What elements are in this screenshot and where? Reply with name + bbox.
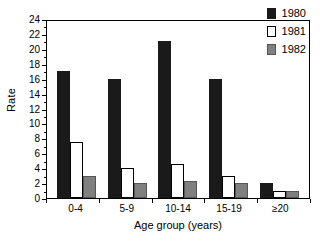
bar-1982-0-4[interactable]: [83, 176, 96, 198]
bar-1982-15-19[interactable]: [235, 183, 248, 198]
y-tick-label: 2: [34, 179, 40, 189]
bar-group: [209, 21, 248, 198]
legend-item-label: 1981: [282, 26, 306, 37]
x-axis-title: Age group (years): [46, 219, 310, 231]
x-tick-label: 0-4: [55, 203, 97, 214]
y-tick-label: 14: [29, 90, 40, 100]
legend-item-1980[interactable]: 1980: [267, 8, 306, 19]
bar-1981-10-14[interactable]: [171, 164, 184, 198]
x-tick-label: ≥20: [259, 203, 301, 214]
bar-1980-≥20[interactable]: [260, 183, 273, 198]
y-tick-label: 16: [29, 75, 40, 85]
y-tick-label: 22: [29, 30, 40, 40]
bar-1981-15-19[interactable]: [222, 176, 235, 198]
bar-1980-15-19[interactable]: [209, 79, 222, 198]
y-axis-title: Rate: [2, 0, 20, 200]
y-tick-label: 24: [29, 15, 40, 25]
bar-1982-≥20[interactable]: [286, 191, 299, 198]
y-tick-label: 20: [29, 45, 40, 55]
bar-1981-≥20[interactable]: [273, 191, 286, 198]
y-tick-label: 18: [29, 60, 40, 70]
bar-chart-figure: Rate 024681012141618202224 0-45-910-1415…: [0, 0, 320, 241]
x-tick-mark: [310, 199, 311, 203]
bar-1981-5-9[interactable]: [121, 168, 134, 198]
y-axis-title-label: Rate: [5, 88, 17, 112]
x-tick-label: 15-19: [208, 203, 250, 214]
y-axis-tick-labels: 024681012141618202224: [20, 20, 40, 198]
x-tick-label: 10-14: [157, 203, 199, 214]
legend-item-label: 1980: [282, 8, 306, 19]
bar-1980-0-4[interactable]: [57, 71, 70, 198]
y-tick-label: 12: [29, 105, 40, 115]
x-tick-label: 5-9: [106, 203, 148, 214]
legend-item-label: 1982: [282, 44, 306, 55]
legend-item-1981[interactable]: 1981: [267, 26, 306, 37]
bar-1982-10-14[interactable]: [184, 181, 197, 198]
bar-1980-5-9[interactable]: [108, 79, 121, 198]
chart-legend: 198019811982: [267, 8, 306, 55]
legend-swatch-icon: [267, 26, 276, 37]
legend-item-1982[interactable]: 1982: [267, 44, 306, 55]
legend-swatch-icon: [267, 44, 276, 55]
y-tick-label: 0: [34, 194, 40, 204]
y-tick-label: 6: [34, 149, 40, 159]
y-tick-label: 10: [29, 119, 40, 129]
bar-1982-5-9[interactable]: [134, 183, 147, 198]
bar-group: [108, 21, 147, 198]
y-tick-label: 4: [34, 164, 40, 174]
bar-1981-0-4[interactable]: [70, 142, 83, 198]
y-tick-label: 8: [34, 134, 40, 144]
legend-swatch-icon: [267, 8, 276, 19]
bar-1980-10-14[interactable]: [158, 41, 171, 198]
x-axis-tick-labels: 0-45-910-1415-19≥20: [46, 203, 310, 217]
bar-group: [57, 21, 96, 198]
bar-group: [158, 21, 197, 198]
